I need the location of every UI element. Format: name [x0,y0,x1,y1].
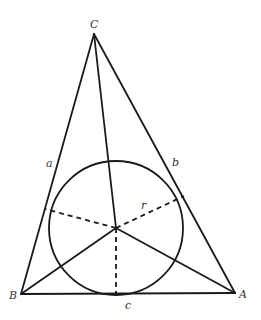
radius-to-b [116,196,184,228]
vertex-label-C: C [90,18,99,31]
vertex-label-B: B [8,289,17,302]
side-a-BC [21,34,94,294]
side-label-b: b [172,156,179,169]
radius-to-a [45,209,116,228]
incircle-diagram: C B A a b c r [0,0,261,320]
vertex-label-A: A [238,288,247,301]
bisector-C [94,34,116,228]
side-label-a: a [46,157,53,170]
radius-label-r: r [141,199,147,212]
side-label-c: c [125,299,131,312]
bisector-B [21,228,116,294]
